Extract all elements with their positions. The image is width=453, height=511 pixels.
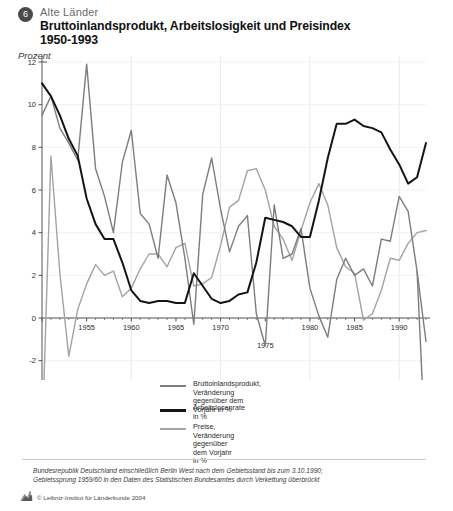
leibniz-logo-icon bbox=[19, 489, 34, 504]
svg-text:8: 8 bbox=[32, 143, 36, 152]
svg-text:-2: -2 bbox=[29, 356, 36, 365]
svg-text:1980: 1980 bbox=[302, 323, 319, 332]
svg-text:4: 4 bbox=[32, 228, 36, 237]
svg-text:6: 6 bbox=[32, 186, 36, 195]
legend-swatch-gdp bbox=[160, 385, 186, 387]
svg-text:0: 0 bbox=[32, 314, 36, 323]
svg-text:1985: 1985 bbox=[346, 323, 363, 332]
svg-text:12: 12 bbox=[28, 58, 36, 67]
copyright-text: © Leibniz-Institut für Länderkunde 2004 bbox=[37, 494, 145, 501]
poster-page: 6 Alte Länder Bruttoinlandsprodukt, Arbe… bbox=[0, 0, 453, 511]
legend-label-unemployment: Arbeitslosenrate in % bbox=[193, 404, 245, 421]
footnote: Bundesrepublik Deutschland einschließlic… bbox=[33, 466, 433, 484]
svg-text:1965: 1965 bbox=[168, 323, 185, 332]
line-chart: -6-4-20246810121955196019651970198019851… bbox=[0, 0, 453, 380]
svg-text:2: 2 bbox=[32, 271, 36, 280]
svg-text:1955: 1955 bbox=[78, 323, 95, 332]
svg-text:10: 10 bbox=[28, 100, 36, 109]
svg-text:1970: 1970 bbox=[212, 323, 229, 332]
footer-divider bbox=[22, 459, 426, 460]
svg-text:1960: 1960 bbox=[123, 323, 140, 332]
svg-text:1990: 1990 bbox=[391, 323, 408, 332]
legend-swatch-unemployment bbox=[160, 409, 186, 412]
legend-swatch-prices bbox=[160, 428, 186, 430]
